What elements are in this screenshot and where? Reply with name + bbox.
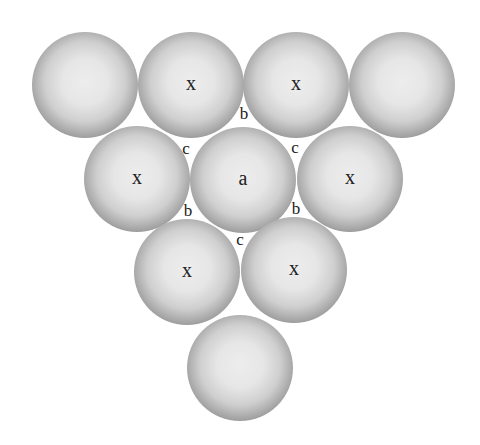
gap-label-c-upright: c	[291, 139, 299, 156]
gap-label-b-top: b	[240, 105, 249, 122]
sphere-r4s1	[187, 315, 293, 421]
sphere-label: x	[132, 167, 142, 187]
gap-label-c-bottom: c	[236, 231, 244, 248]
sphere-label: x	[186, 73, 196, 93]
sphere-r1s1	[32, 32, 138, 138]
sphere-label: a	[239, 168, 248, 188]
gap-label-b-lowleft: b	[184, 202, 193, 219]
sphere-label: x	[291, 73, 301, 93]
gap-label-b-lowright: b	[292, 200, 301, 217]
sphere-label: x	[182, 260, 192, 280]
sphere-label: x	[289, 258, 299, 278]
sphere-packing-diagram: xxxaxxxbccbbc	[0, 0, 480, 445]
sphere-label: x	[345, 167, 355, 187]
gap-label-c-upleft: c	[182, 140, 190, 157]
sphere-r1s4	[349, 32, 455, 138]
